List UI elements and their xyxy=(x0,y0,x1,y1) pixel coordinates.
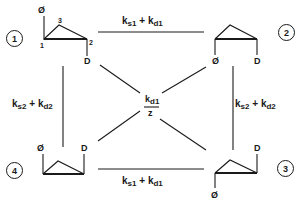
molecule-2 xyxy=(215,25,257,55)
deuterium-label-1: D xyxy=(84,57,91,66)
atom-number-3: 3 xyxy=(58,17,62,24)
rate-label-left: ks2 + kd2 xyxy=(12,99,53,111)
molecule-1 xyxy=(44,16,87,56)
phi-label-1: Ø xyxy=(38,6,45,15)
diagonal-2-4-upper xyxy=(162,67,206,93)
phi-label-3: Ø xyxy=(211,191,218,200)
rate-label-top: ks1 + kd1 xyxy=(122,16,163,28)
phi-label-4: Ø xyxy=(37,144,44,153)
phi-label-2: Ø xyxy=(212,57,219,66)
deuterium-label-3: D xyxy=(254,144,261,153)
molecule-3 xyxy=(215,154,257,188)
atom-number-2: 2 xyxy=(89,39,93,46)
rate-label-diagonal-numerator: kd1 xyxy=(145,95,159,106)
deuterium-label-4: D xyxy=(81,144,88,153)
rate-label-diagonal-denominator: z xyxy=(148,109,153,118)
atom-number-1: 1 xyxy=(40,42,44,49)
diagonal-1-3-upper xyxy=(100,65,140,93)
deuterium-label-2: D xyxy=(254,57,261,66)
diagonal-2-4-lower xyxy=(98,111,140,141)
rate-label-right: ks2 + kd2 xyxy=(235,99,276,111)
diagonal-1-3-lower xyxy=(160,119,206,150)
rate-label-bottom: ks1 + kd1 xyxy=(122,176,163,188)
state-4-badge: 4 xyxy=(6,162,23,179)
state-1-badge: 1 xyxy=(6,30,23,47)
molecule-4 xyxy=(43,154,84,174)
state-2-badge: 2 xyxy=(278,24,295,41)
state-3-badge: 3 xyxy=(277,160,294,177)
